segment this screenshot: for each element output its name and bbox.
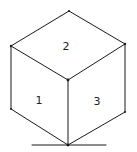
face-label-right: 3 [94, 95, 101, 108]
cube-diagram: 1 2 3 [0, 0, 137, 152]
face-label-top: 2 [63, 40, 70, 53]
face-label-left: 1 [36, 94, 43, 107]
